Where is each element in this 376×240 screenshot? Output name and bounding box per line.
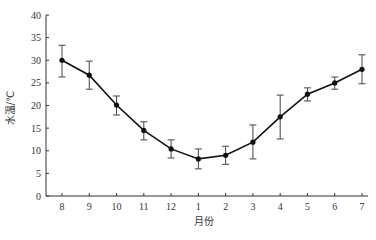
- data-series: [59, 45, 366, 169]
- y-tick-label: 10: [31, 145, 41, 156]
- x-tick-label: 12: [166, 201, 176, 212]
- data-point: [305, 92, 310, 97]
- data-point: [87, 73, 92, 78]
- y-tick-label: 35: [31, 32, 41, 43]
- x-tick-label: 4: [278, 201, 283, 212]
- y-axis: 0510152025303540: [31, 10, 49, 202]
- data-point: [59, 58, 64, 63]
- y-tick-label: 40: [31, 10, 41, 21]
- x-tick-label: 10: [112, 201, 122, 212]
- data-point: [223, 153, 228, 158]
- x-tick-label: 1: [196, 201, 201, 212]
- data-point: [141, 128, 146, 133]
- data-point: [250, 140, 255, 145]
- x-tick-label: 8: [60, 201, 65, 212]
- line-chart: 0510152025303540 891011121234567 月份 水温/℃: [0, 0, 376, 240]
- data-point: [359, 67, 364, 72]
- data-point: [278, 114, 283, 119]
- x-tick-label: 11: [139, 201, 149, 212]
- x-tick-label: 2: [223, 201, 228, 212]
- x-axis: 891011121234567: [46, 193, 368, 212]
- x-tick-label: 9: [87, 201, 92, 212]
- data-point: [168, 146, 173, 151]
- y-tick-label: 5: [36, 168, 41, 179]
- data-point: [114, 102, 119, 107]
- series-line: [62, 60, 362, 159]
- x-tick-label: 7: [360, 201, 365, 212]
- x-tick-label: 5: [305, 201, 310, 212]
- y-tick-label: 15: [31, 123, 41, 134]
- y-tick-label: 20: [31, 100, 41, 111]
- x-axis-title: 月份: [194, 216, 214, 227]
- x-tick-label: 3: [250, 201, 255, 212]
- data-point: [332, 80, 337, 85]
- y-tick-label: 30: [31, 55, 41, 66]
- y-axis-title: 水温/℃: [5, 91, 16, 126]
- x-tick-label: 6: [332, 201, 337, 212]
- y-tick-label: 0: [36, 191, 41, 202]
- y-tick-label: 25: [31, 77, 41, 88]
- data-point: [196, 156, 201, 161]
